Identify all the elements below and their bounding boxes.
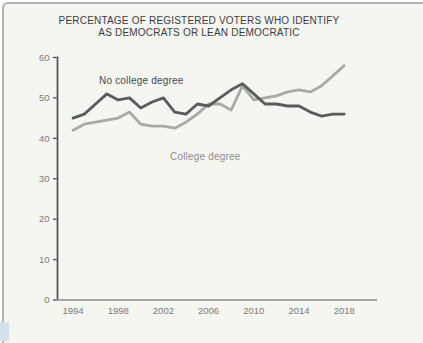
y-tick-label: 30: [39, 173, 50, 184]
y-tick-label: 60: [39, 52, 50, 63]
x-tick-label: 1994: [62, 305, 83, 316]
x-tick-label: 2010: [243, 305, 264, 316]
x-tick-label: 2006: [198, 305, 219, 316]
x-tick-label: 2014: [288, 305, 309, 316]
y-tick-label: 40: [39, 133, 50, 144]
y-tick-label: 10: [39, 254, 50, 265]
series-line-no-college-degree: [73, 84, 344, 118]
series-label-college-degree: College degree: [170, 151, 241, 162]
y-tick-label: 20: [39, 213, 50, 224]
y-tick-label: 50: [39, 92, 50, 103]
series-label-no-college-degree: No college degree: [99, 75, 184, 86]
x-tick-label: 2018: [334, 305, 355, 316]
x-tick-label: 2002: [153, 305, 174, 316]
y-tick-label: 0: [44, 294, 49, 305]
x-tick-label: 1998: [108, 305, 129, 316]
